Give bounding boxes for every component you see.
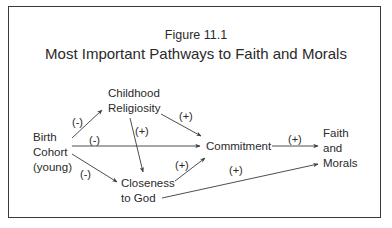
sign-closeness-faith: (+) bbox=[229, 164, 243, 176]
node-commitment: Commitment bbox=[206, 139, 271, 154]
sign-childhood-commitment: (+) bbox=[179, 110, 193, 122]
node-closeness-to-god: Closeness to God bbox=[121, 176, 175, 206]
sign-closeness-commitment: (+) bbox=[175, 159, 189, 171]
node-label: Childhood bbox=[108, 86, 160, 101]
node-label: Birth bbox=[33, 130, 72, 145]
sign-birth-closeness: (-) bbox=[80, 168, 91, 180]
sign-birth-childhood: (-) bbox=[72, 116, 83, 128]
node-label: Cohort bbox=[33, 145, 72, 160]
node-label: Morals bbox=[323, 156, 358, 171]
node-birth-cohort: Birth Cohort (young) bbox=[33, 130, 72, 175]
node-label: Closeness bbox=[121, 176, 175, 191]
arrow-birth-to-closeness bbox=[72, 154, 117, 182]
node-label: Religiosity bbox=[108, 101, 160, 116]
node-label: Commitment bbox=[206, 139, 271, 154]
sign-childhood-closeness: (+) bbox=[135, 125, 149, 137]
node-label: and bbox=[323, 141, 358, 156]
node-label: to God bbox=[121, 191, 175, 206]
node-label: Faith bbox=[323, 126, 358, 141]
pathway-arrows bbox=[0, 0, 392, 228]
node-childhood-religiosity: Childhood Religiosity bbox=[108, 86, 160, 116]
sign-birth-commitment: (-) bbox=[89, 134, 100, 146]
sign-commitment-faith: (+) bbox=[288, 133, 302, 145]
node-faith-and-morals: Faith and Morals bbox=[323, 126, 358, 171]
node-label: (young) bbox=[33, 160, 72, 175]
